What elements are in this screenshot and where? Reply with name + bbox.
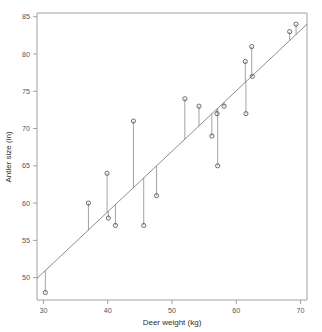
y-axis-title: Antler size (in)	[4, 131, 13, 182]
x-tick-label-50: 50	[168, 306, 176, 315]
x-tick-label-60: 60	[232, 306, 240, 315]
y-tick-label-50: 50	[22, 273, 30, 282]
x-tick-label-40: 40	[104, 306, 112, 315]
x-tick-label-70: 70	[297, 306, 305, 315]
y-tick-label-60: 60	[22, 199, 30, 208]
x-tick-label-30: 30	[39, 306, 47, 315]
x-axis-title: Deer weight (kg)	[143, 318, 202, 327]
chart-canvas: 3040506070 5055606570758085 Deer weight …	[0, 0, 322, 332]
y-tick-label-75: 75	[22, 87, 30, 96]
chart-background	[0, 0, 322, 332]
y-tick-label-55: 55	[22, 236, 30, 245]
y-tick-label-85: 85	[22, 12, 30, 21]
y-tick-label-80: 80	[22, 50, 30, 59]
y-tick-label-70: 70	[22, 124, 30, 133]
y-tick-label-65: 65	[22, 161, 30, 170]
scatter-plot-figure: 3040506070 5055606570758085 Deer weight …	[0, 0, 322, 332]
